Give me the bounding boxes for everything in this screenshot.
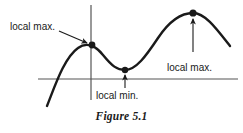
figure-container: local max. local min. local max. Figure … — [0, 0, 243, 133]
function-curve — [47, 13, 230, 106]
annotation-label-local-min: local min. — [96, 90, 138, 101]
arrow-local-max-left — [59, 31, 87, 43]
annotation-label-local-max-left: local max. — [10, 21, 55, 32]
figure-caption: Figure 5.1 — [0, 110, 243, 122]
point-local-min — [122, 67, 128, 73]
point-local-max-left — [89, 42, 96, 49]
annotation-label-local-max-right: local max. — [167, 62, 212, 73]
point-local-max-right — [189, 9, 196, 16]
